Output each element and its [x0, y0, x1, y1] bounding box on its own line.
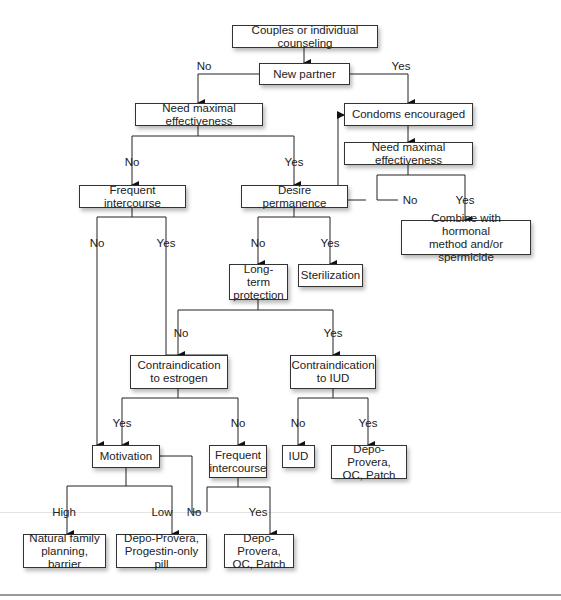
node-frequent-intercourse-2: Frequent intercourse [209, 445, 267, 478]
label-desire-perm-yes: Yes [321, 237, 340, 250]
label-contra-iud-yes: Yes [359, 417, 378, 430]
node-depo-progestin: Depo-Provera, Progestin-only pill [116, 534, 207, 568]
node-desire-permanence: Desire permanence [241, 185, 348, 208]
node-depo-oc-patch-2: Depo-Provera, OC, Patch [224, 534, 294, 568]
label-freq-inter-2-yes: Yes [249, 506, 268, 519]
label-contra-estrogen-no: No [231, 417, 246, 430]
label-new-partner-no: No [197, 60, 212, 73]
label-new-partner-yes: Yes [392, 60, 411, 73]
label-motivation-high: High [52, 506, 76, 519]
label-contra-iud-no: No [291, 417, 306, 430]
node-long-term-protection: Long-term protection [229, 264, 288, 300]
node-motivation: Motivation [92, 445, 160, 468]
label-motivation-low: Low [151, 506, 172, 519]
contraception-decision-flowchart: Couples or individual counseling New par… [0, 0, 561, 600]
node-sterilization: Sterilization [298, 264, 363, 287]
label-need-max-right-no: No [403, 194, 418, 207]
bottom-divider [0, 594, 561, 596]
label-long-term-no: No [174, 327, 189, 340]
node-need-maximal-effectiveness-left: Need maximal effectiveness [135, 103, 263, 126]
node-frequent-intercourse-1: Frequent intercourse [79, 185, 186, 208]
node-need-maximal-effectiveness-right: Need maximal effectiveness [344, 142, 473, 165]
label-long-term-yes: Yes [324, 327, 343, 340]
label-freq-inter-1-no: No [90, 237, 105, 250]
label-desire-perm-no: No [251, 237, 266, 250]
label-need-max-left-yes: Yes [285, 156, 304, 169]
label-freq-inter-1-yes: Yes [157, 237, 176, 250]
label-need-max-right-yes: Yes [456, 194, 475, 207]
label-freq-inter-2-no: No [187, 506, 202, 519]
node-contraindication-estrogen: Contraindication to estrogen [130, 355, 228, 389]
node-combine-hormonal: Combine with hormonal method and/or sper… [401, 220, 531, 255]
node-condoms-encouraged: Condoms encouraged [344, 103, 473, 126]
label-need-max-left-no: No [125, 156, 140, 169]
node-iud: IUD [282, 445, 315, 468]
label-contra-estrogen-yes: Yes [113, 417, 132, 430]
node-natural-family-planning: Natural family planning, barrier [23, 534, 106, 568]
node-counseling: Couples or individual counseling [232, 25, 378, 48]
node-contraindication-iud: Contraindication to IUD [290, 355, 376, 389]
node-new-partner: New partner [259, 63, 350, 85]
node-depo-oc-patch-1: Depo-Provera, OC, Patch [331, 445, 407, 479]
